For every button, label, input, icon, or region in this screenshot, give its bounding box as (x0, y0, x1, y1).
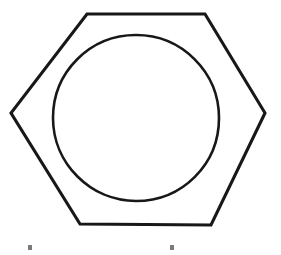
hex-nut-diagram (0, 0, 281, 255)
tick-mark-right-icon (170, 245, 174, 250)
figure-background (0, 0, 281, 255)
figure-root (0, 0, 281, 255)
tick-mark-left-icon (28, 245, 32, 250)
